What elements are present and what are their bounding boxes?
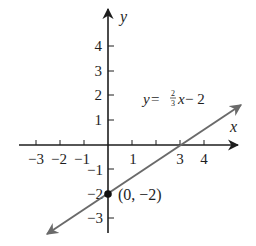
y-tick-label: 4 (95, 38, 103, 54)
svg-text:− 2: − 2 (185, 91, 205, 107)
y-tick-label: −3 (87, 210, 103, 226)
x-tick-label: 1 (129, 151, 137, 167)
x-tick-label: 3 (176, 151, 184, 167)
y-tick-label: −1 (87, 162, 103, 178)
svg-text:x: x (177, 91, 185, 107)
svg-text:2: 2 (171, 89, 175, 98)
y-axis-label: y (118, 8, 128, 26)
plotted-line (47, 105, 241, 234)
equation-label: y = 2 3 x − 2 (141, 89, 205, 108)
x-tick-label: −3 (28, 151, 44, 167)
y-tick-label: −2 (87, 186, 103, 202)
svg-text:=: = (151, 91, 159, 107)
x-axis-label: x (229, 118, 237, 135)
y-tick-label: 3 (95, 63, 103, 79)
intercept-point (104, 190, 112, 198)
graph-figure: −3 −2 −1 1 3 4 4 3 2 1 −1 −2 −3 x y (0, … (0, 0, 256, 246)
svg-text:3: 3 (171, 99, 175, 108)
y-tick-label: 1 (95, 112, 103, 128)
x-tick-label: −2 (51, 151, 67, 167)
intercept-point-label: (0, −2) (118, 186, 162, 204)
svg-text:y: y (141, 91, 150, 107)
y-tick-label: 2 (95, 87, 103, 103)
x-tick-label: 4 (200, 151, 208, 167)
